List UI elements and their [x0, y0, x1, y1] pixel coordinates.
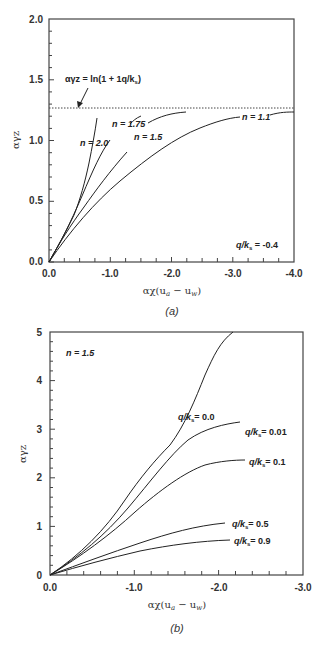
chart-a-arrow-line: [80, 88, 88, 104]
chart-b-ytick-2: 2: [36, 472, 42, 483]
figure: 0.0 0.5 1.0 1.5 2.0 0.0 -1.0 -2.0 -3.0 -…: [0, 0, 326, 645]
chart-a-arrow-head-icon: [77, 101, 83, 108]
chart-b-xtick-0: 0.0: [43, 582, 57, 593]
chart-b-ytick-0: 0: [36, 570, 42, 581]
chart-b-x-title: αχ(ua − uw): [148, 599, 207, 612]
chart-a-x-ticks: [64, 257, 278, 262]
chart-a-param-label: q/ks = -0.4: [236, 240, 278, 251]
chart-b-ytick-1: 1: [36, 521, 42, 532]
chart-a-ytick-2: 1.0: [29, 135, 43, 146]
chart-b-label-q09: q/ks= 0.9: [234, 536, 271, 547]
chart-a-xtick-2: -2.0: [163, 268, 181, 279]
chart-a-ytick-0: 0.0: [29, 256, 43, 267]
chart-a-y-ticks: [49, 31, 54, 262]
chart-a-y-title: αγz: [10, 131, 21, 149]
chart-a-xtick-3: -3.0: [224, 268, 242, 279]
chart-a-ytick-3: 1.5: [29, 74, 43, 85]
chart-a-xtick-1: -1.0: [101, 268, 119, 279]
chart-b-curve-q-0.0: [50, 332, 233, 575]
chart-a-curve-n-1.75-tail: [148, 112, 186, 123]
chart-b-label-q05: q/ks= 0.5: [232, 519, 269, 530]
chart-a-asymptote-label: αγz = ln(1 + 1q/ks): [65, 74, 141, 85]
chart-a-xtick-0: 0.0: [42, 268, 56, 279]
chart-b-y-ticks: [50, 342, 55, 566]
chart-a: 0.0 0.5 1.0 1.5 2.0 0.0 -1.0 -2.0 -3.0 -…: [10, 14, 303, 317]
chart-b-x-ticks: [67, 570, 286, 575]
chart-b-caption: (b): [170, 622, 184, 634]
chart-b-xtick-1: -1.0: [125, 582, 143, 593]
chart-b-ytick-5: 5: [36, 327, 42, 338]
chart-b-ytick-4: 4: [36, 375, 42, 386]
chart-a-ytick-1: 0.5: [29, 195, 43, 206]
chart-b-curve-q-0.1: [50, 460, 245, 575]
chart-b-xtick-2: -2.0: [210, 582, 228, 593]
chart-a-label-n20: n = 2.0: [80, 138, 108, 148]
chart-b-label-q001: q/ks= 0.01: [245, 427, 287, 438]
chart-a-ytick-4: 2.0: [29, 14, 43, 25]
chart-a-xtick-4: -4.0: [285, 268, 303, 279]
chart-b-curve-q-0.01: [50, 422, 240, 575]
chart-b: 0 1 2 3 4 5 0.0 -1.0 -2.0 -3.0 αγz αχ(ua…: [17, 327, 312, 634]
chart-a-label-n11: n = 1.1: [242, 112, 270, 122]
chart-b-y-title: αγz: [17, 445, 28, 463]
chart-a-curve-n-1.1-tail: [270, 112, 294, 115]
chart-b-label-q00: q/ks= 0.0: [178, 412, 215, 423]
chart-b-ytick-3: 3: [36, 424, 42, 435]
chart-a-x-title: αχ(ua − uw): [143, 285, 202, 298]
chart-a-caption: (a): [165, 305, 179, 317]
chart-a-label-n15: n = 1.5: [134, 132, 163, 142]
chart-b-n-label: n = 1.5: [66, 348, 95, 358]
chart-b-xtick-3: -3.0: [294, 582, 312, 593]
chart-b-label-q01: q/ks= 0.1: [249, 457, 286, 468]
chart-a-label-n175: n = 1.75: [112, 119, 146, 129]
chart-a-curve-n-1.75: [49, 140, 110, 262]
